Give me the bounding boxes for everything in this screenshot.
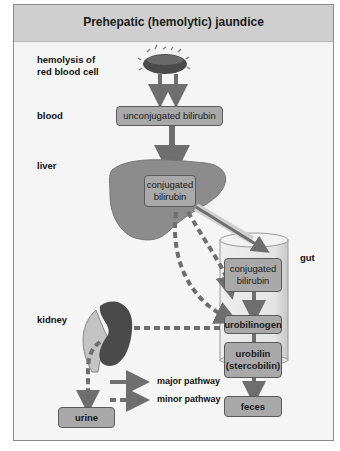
box-urine: urine bbox=[58, 407, 115, 428]
box-feces: feces bbox=[224, 396, 282, 417]
box-conjugated-bilirubin-gut: conjugated bilirubin bbox=[224, 258, 282, 292]
box-urobilinogen: urobilinogen bbox=[224, 315, 282, 334]
legend-minor-pathway: minor pathway bbox=[157, 394, 221, 404]
label-kidney: kidney bbox=[37, 314, 67, 326]
label-hemolysis: hemolysis ofred blood cell bbox=[37, 54, 117, 78]
label-gut: gut bbox=[300, 252, 315, 264]
label-liver: liver bbox=[37, 160, 57, 172]
box-conjugated-bilirubin-liver: conjugated bilirubin bbox=[144, 175, 196, 207]
label-blood: blood bbox=[37, 110, 63, 122]
legend-major-pathway: major pathway bbox=[157, 376, 220, 386]
box-unconjugated-bilirubin: unconjugated bilirubin bbox=[116, 106, 223, 126]
box-urobilin: urobilin (stercobilin) bbox=[224, 342, 282, 378]
red-blood-cell-icon bbox=[138, 45, 190, 74]
